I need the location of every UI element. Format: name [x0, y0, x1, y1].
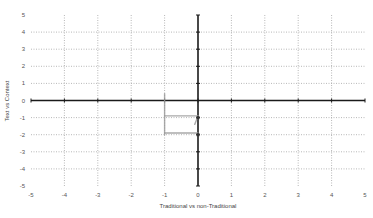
x-tick-label: -5: [28, 192, 34, 198]
y-tick-labels: 543210-1-2-3-4-5: [20, 12, 26, 189]
y-tick-label: -5: [20, 183, 26, 189]
axes: [31, 15, 365, 186]
x-tick-label: 4: [330, 192, 334, 198]
y-tick-label: -4: [20, 166, 26, 172]
y-tick-label: 2: [22, 63, 26, 69]
y-tick-label: 0: [22, 98, 26, 104]
x-tick-label: 2: [263, 192, 267, 198]
x-tick-label: 5: [363, 192, 367, 198]
x-axis-label: Traditional vs non-Traditional: [160, 203, 237, 209]
x-tick-labels: -5-4-3-2-1012345: [28, 192, 367, 198]
x-tick-label: 0: [196, 192, 200, 198]
x-tick-label: -4: [62, 192, 68, 198]
data-point: [197, 116, 200, 119]
y-tick-label: 4: [22, 29, 26, 35]
data-point: [197, 133, 200, 136]
y-tick-label: 3: [22, 46, 26, 52]
y-tick-label: -2: [20, 132, 26, 138]
y-tick-label: 5: [22, 12, 26, 18]
y-tick-label: -3: [20, 149, 26, 155]
y-tick-label: 1: [22, 80, 26, 86]
x-tick-label: -1: [162, 192, 168, 198]
chart: -5-4-3-2-1012345 543210-1-2-3-4-5 Tradit…: [0, 0, 373, 218]
x-tick-label: 1: [230, 192, 234, 198]
y-axis-label: Text vs Context: [4, 80, 10, 121]
y-tick-label: -1: [20, 115, 26, 121]
x-tick-label: -2: [129, 192, 135, 198]
x-tick-label: -3: [95, 192, 101, 198]
x-tick-label: 3: [297, 192, 301, 198]
